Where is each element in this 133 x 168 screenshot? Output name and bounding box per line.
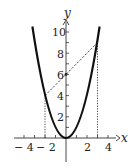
x-tick-label: 2	[84, 141, 91, 154]
y-tick-label: 4	[57, 90, 64, 103]
y-intercept-point	[65, 73, 68, 76]
y-tick-label: 8	[57, 48, 64, 61]
x-axis-label: x	[121, 131, 128, 145]
diagram: x y − 4 − 2 2 4 2 4 6 8 10	[0, 0, 133, 168]
y-axis-label: y	[63, 6, 71, 20]
x-tick-label: 4	[105, 141, 112, 154]
x-tick-label: − 4	[14, 141, 34, 154]
y-tick-label: 2	[57, 111, 64, 124]
y-tick-label: 6	[57, 69, 64, 82]
x-tick-label: − 2	[36, 141, 56, 154]
y-tick-label: 10	[52, 26, 66, 39]
x-axis-arrow-icon	[116, 135, 120, 141]
